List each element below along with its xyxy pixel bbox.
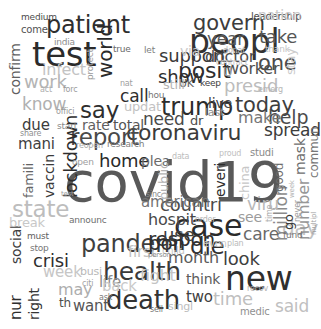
word-ask: ask — [99, 294, 112, 302]
word-updat: updat — [124, 100, 161, 113]
word-recov: recov — [247, 285, 268, 293]
word-see: see — [238, 210, 262, 224]
word-vaccin: vaccin — [42, 154, 56, 198]
word-donat: donat — [223, 47, 245, 55]
word-open: open — [72, 158, 94, 167]
word-time: time — [266, 205, 274, 222]
word-sinc: sinc — [146, 191, 161, 199]
word-commun: commun — [308, 127, 320, 178]
word-medium: medium — [21, 13, 57, 22]
word-back: back — [102, 279, 137, 294]
word-patient: patient — [46, 13, 130, 37]
word-nat: nat — [120, 80, 133, 88]
word-citi: citi — [82, 280, 93, 288]
word-said: said — [275, 298, 309, 315]
word-busi: busi — [80, 266, 102, 277]
word-famili: famili — [22, 163, 35, 198]
word-nation: nation — [258, 8, 301, 22]
word-share: share — [20, 130, 41, 138]
word-dr: dr — [190, 114, 203, 127]
word-th: th — [59, 297, 71, 309]
word-order: order — [195, 216, 215, 224]
word-never: never — [294, 200, 302, 222]
word-china: china — [238, 166, 251, 200]
word-keep: keep — [200, 79, 221, 88]
word-break: break — [9, 216, 45, 229]
word-last: last — [205, 107, 224, 118]
word-fight: fight — [140, 268, 176, 284]
word-true: true — [113, 45, 131, 54]
word-contract: contract — [216, 59, 248, 67]
word-mani: mani — [18, 137, 55, 152]
word-announc: announc — [69, 216, 106, 225]
word-pon: pon — [148, 233, 185, 253]
word-let: let — [144, 46, 155, 55]
word-infect: infect — [42, 62, 86, 78]
word-forc: forc — [63, 86, 77, 94]
word-sell: sell — [150, 306, 163, 314]
word-think: think — [186, 272, 220, 286]
word-week: week — [43, 265, 82, 280]
word-confirm: confirm — [8, 43, 22, 95]
word-proud: proud — [219, 150, 241, 158]
word-cloud-chart: covid19testpeoplnewcasepatientdeathhealt… — [0, 0, 321, 329]
word-right: right — [27, 288, 41, 320]
word-via: via — [180, 44, 200, 58]
word-nur: nur — [9, 295, 24, 320]
word-singl: singl — [168, 301, 193, 312]
word-mask: mask — [293, 138, 307, 175]
word-rate: rate — [82, 118, 110, 132]
word-good: good — [273, 163, 285, 192]
word-emerg: emerg — [258, 86, 283, 94]
word-care: care — [243, 226, 279, 243]
word-make: make — [238, 110, 281, 126]
word-must: must — [27, 232, 49, 241]
word-even: even — [203, 239, 227, 249]
word-thank: thank — [265, 45, 290, 54]
word-social: social — [9, 225, 23, 264]
word-start: start — [57, 122, 77, 131]
word-test: test — [61, 191, 74, 198]
word-hou: hou — [148, 91, 164, 100]
word-fund: fund — [283, 231, 303, 240]
word-multipl: multipl — [311, 212, 318, 235]
word-research: research — [107, 140, 144, 149]
word-medic: medic — [240, 307, 270, 317]
word-studi: studi — [250, 148, 274, 158]
word-protect: protect — [86, 49, 95, 80]
word-reopen: reopen — [76, 142, 103, 150]
word-everi: everi — [213, 163, 227, 197]
word-plan: plan — [227, 240, 243, 248]
word-stop: stop — [30, 244, 49, 253]
word-week: week — [289, 180, 296, 198]
word-data: data — [172, 153, 189, 161]
word-come: come — [21, 25, 48, 35]
word-offici: offici — [56, 108, 74, 116]
word-still: still — [163, 78, 185, 91]
word-total: total — [113, 118, 144, 132]
word-act: act — [40, 86, 52, 94]
word-world: world — [95, 24, 115, 78]
word-india: india — [54, 38, 75, 47]
word-look: look — [223, 250, 260, 268]
